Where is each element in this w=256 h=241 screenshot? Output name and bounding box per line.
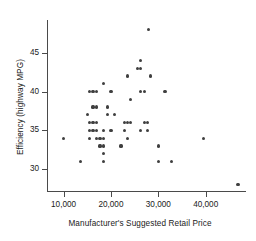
y-tick-mark — [42, 130, 48, 131]
data-point — [102, 152, 105, 155]
data-point — [236, 183, 239, 186]
y-tick-label: 30 — [20, 165, 39, 173]
data-point — [123, 121, 126, 124]
y-tick-mark — [42, 53, 48, 54]
data-point — [102, 129, 105, 132]
data-point — [202, 137, 205, 140]
scatter-plot-figure: Efficiency (highway MPG) 30354045 10,000… — [0, 0, 256, 241]
data-point — [102, 160, 105, 163]
data-point — [126, 121, 129, 124]
data-point — [146, 121, 149, 124]
x-tick-label: 10,000 — [41, 201, 87, 209]
data-point — [88, 129, 91, 132]
data-point — [119, 144, 122, 147]
x-tick-label: 30,000 — [135, 201, 181, 209]
data-point — [88, 121, 91, 124]
data-point — [91, 121, 94, 124]
data-point — [98, 137, 101, 140]
data-point — [147, 28, 150, 31]
x-axis-line — [47, 191, 246, 192]
x-tick-mark — [111, 191, 112, 197]
data-point — [98, 144, 101, 147]
data-point — [102, 144, 105, 147]
x-tick-mark — [64, 191, 65, 197]
data-point — [91, 129, 94, 132]
data-point — [149, 74, 152, 77]
data-point — [95, 137, 98, 140]
y-tick-mark — [42, 92, 48, 93]
data-point — [143, 121, 146, 124]
data-point — [95, 105, 98, 108]
data-point — [143, 90, 146, 93]
data-point — [79, 160, 82, 163]
data-point — [109, 129, 112, 132]
data-point — [95, 129, 98, 132]
data-point — [91, 105, 94, 108]
data-point — [139, 90, 142, 93]
data-point — [157, 160, 160, 163]
data-point — [88, 90, 91, 93]
x-tick-label: 20,000 — [88, 201, 134, 209]
x-tick-mark — [206, 191, 207, 197]
data-point — [170, 160, 173, 163]
data-point — [102, 82, 105, 85]
data-point — [126, 137, 129, 140]
data-point — [106, 113, 109, 116]
y-tick-label: 35 — [20, 126, 39, 134]
x-tick-mark — [158, 191, 159, 197]
data-point — [106, 105, 109, 108]
data-point — [62, 137, 65, 140]
x-axis-title: Manufacturer's Suggested Retail Price — [30, 219, 250, 228]
data-point — [136, 67, 139, 70]
data-point — [129, 98, 132, 101]
data-point — [157, 144, 160, 147]
data-point — [163, 90, 166, 93]
data-point — [113, 113, 116, 116]
data-point — [95, 121, 98, 124]
data-point — [139, 59, 142, 62]
data-point — [129, 121, 132, 124]
data-point — [91, 90, 94, 93]
data-point — [109, 90, 112, 93]
data-point — [88, 137, 91, 140]
data-point — [102, 137, 105, 140]
y-tick-label: 45 — [20, 49, 39, 57]
data-point — [139, 67, 142, 70]
x-tick-label: 40,000 — [183, 201, 229, 209]
data-point — [123, 129, 126, 132]
data-point — [86, 113, 89, 116]
data-point — [146, 129, 149, 132]
data-point — [95, 90, 98, 93]
y-axis-line — [47, 20, 48, 192]
data-point — [139, 129, 142, 132]
data-point — [126, 74, 129, 77]
y-tick-mark — [42, 169, 48, 170]
y-tick-label: 40 — [20, 88, 39, 96]
